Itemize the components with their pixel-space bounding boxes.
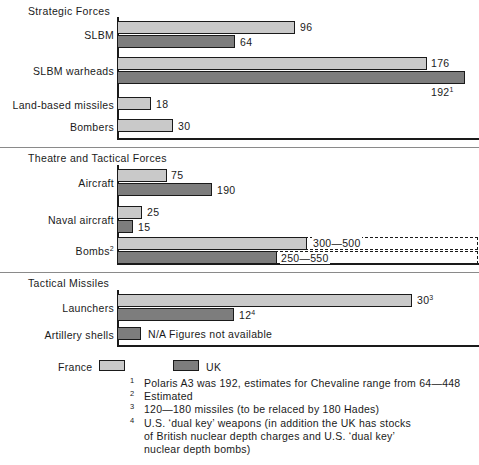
bar-value-bombs-france: 300—500	[312, 237, 362, 249]
footnote-item-2: 2 Estimated	[130, 390, 475, 403]
section-title-theatre: Theatre and Tactical Forces	[28, 152, 167, 164]
bar-launchers-uk	[117, 308, 234, 321]
artillery-shells-na-note: N/A Figures not available	[148, 328, 272, 340]
bar-value-slbm-france: 96	[300, 21, 312, 33]
category-label-bombs-text: Bombs	[76, 245, 110, 257]
category-label-artillery-shells: Artillery shells	[0, 329, 114, 341]
bar-aircraft-france	[117, 169, 167, 182]
bar-naval-aircraft-uk	[117, 220, 133, 233]
category-label-aircraft: Aircraft	[0, 177, 114, 189]
footnote-text-3: 120—180 missiles (to be relaced by 180 H…	[144, 403, 475, 416]
footnote-item-3: 3 120—180 missiles (to be relaced by 180…	[130, 403, 475, 416]
bar-value-launchers-france-number: 30	[417, 294, 429, 306]
bar-value-naval-aircraft-france: 25	[147, 206, 159, 218]
bar-value-slbm-warheads-uk: 1921	[431, 86, 454, 98]
bar-value-launchers-france: 303	[417, 294, 433, 306]
bar-bombers-france	[117, 119, 173, 132]
category-label-bombers: Bombers	[0, 121, 114, 133]
bar-naval-aircraft-france	[117, 206, 142, 219]
baseline-strategic	[117, 138, 479, 140]
bar-value-launchers-uk: 124	[239, 309, 255, 321]
footnotes-block: 1 Polaris A3 was 192, estimates for Chev…	[130, 377, 475, 456]
legend-label-uk: UK	[206, 361, 221, 373]
footnote-marker-3: 3	[130, 400, 134, 413]
bar-value-land-based-missiles-france: 18	[156, 98, 168, 110]
nuclear-forces-bar-chart: Strategic Forces SLBM 96 64 SLBM warhead…	[0, 0, 479, 465]
bar-bombs-france	[117, 237, 307, 250]
section-divider-1	[0, 147, 479, 148]
section-divider-2	[0, 272, 479, 273]
legend-label-france: France	[58, 361, 92, 373]
footnote-ref-1: 1	[449, 86, 453, 93]
footnote-marker-4: 4	[130, 414, 134, 427]
footnote-item-1: 1 Polaris A3 was 192, estimates for Chev…	[130, 377, 475, 390]
section-title-strategic: Strategic Forces	[28, 5, 110, 17]
footnote-item-4: 4 U.S. ‘dual key’ weapons (in addition t…	[130, 417, 475, 430]
bar-value-bombers-france: 30	[178, 120, 190, 132]
baseline-tactical	[117, 345, 479, 347]
bar-bombs-uk	[117, 251, 277, 264]
category-label-naval-aircraft: Naval aircraft	[0, 214, 114, 226]
bar-aircraft-uk	[117, 183, 212, 196]
category-label-slbm-warheads: SLBM warheads	[0, 65, 114, 77]
category-label-bombs: Bombs2	[0, 245, 114, 257]
bar-value-bombs-uk: 250—550	[280, 252, 330, 264]
footnote-ref-2: 2	[110, 245, 114, 252]
footnote-marker-2: 2	[130, 387, 134, 400]
bar-value-aircraft-uk: 190	[217, 184, 235, 196]
footnote-continuation-2: nuclear depth bombs)	[130, 443, 475, 456]
bar-value-aircraft-france: 75	[171, 169, 183, 181]
category-label-land-based-missiles: Land-based missiles	[0, 99, 114, 111]
footnote-ref-3: 3	[429, 294, 433, 301]
footnote-marker-1: 1	[130, 374, 134, 387]
bar-slbm-warheads-france	[117, 57, 427, 70]
footnote-text-2: Estimated	[144, 390, 475, 403]
legend-swatch-uk	[173, 360, 199, 371]
bar-value-slbm-uk: 64	[240, 36, 252, 48]
bar-value-naval-aircraft-uk: 15	[138, 221, 150, 233]
bar-value-slbm-warheads-uk-number: 192	[431, 86, 449, 98]
footnote-text-1: Polaris A3 was 192, estimates for Cheval…	[144, 377, 475, 390]
bar-slbm-warheads-uk	[117, 71, 465, 84]
bar-land-based-missiles-france	[117, 97, 151, 110]
bar-artillery-shells-uk	[117, 327, 141, 340]
bar-slbm-uk	[117, 35, 235, 48]
footnote-continuation-1: of British nuclear depth charges and U.S…	[130, 430, 475, 443]
bar-value-launchers-uk-number: 12	[239, 309, 251, 321]
bar-launchers-france	[117, 294, 412, 307]
category-label-slbm: SLBM	[0, 29, 114, 41]
bar-value-slbm-warheads-france: 176	[431, 57, 449, 69]
section-title-tactical: Tactical Missiles	[28, 277, 109, 289]
footnote-ref-4: 4	[251, 309, 255, 316]
legend-swatch-france	[99, 360, 125, 371]
category-label-launchers: Launchers	[0, 302, 114, 314]
bar-slbm-france	[117, 21, 295, 34]
footnote-text-4: U.S. ‘dual key’ weapons (in addition the…	[144, 417, 475, 430]
